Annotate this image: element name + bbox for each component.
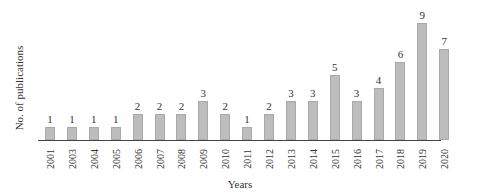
bar-value-label: 2 [150, 100, 170, 112]
x-tick-label: 2007 [154, 145, 166, 175]
bar-value-label: 1 [237, 113, 257, 125]
x-tick-label: 2015 [329, 145, 341, 175]
x-axis-label: Years [0, 178, 480, 190]
bar [111, 127, 121, 140]
bar [155, 114, 165, 140]
bar-value-label: 7 [434, 35, 454, 47]
bar [242, 127, 252, 140]
bar-value-label: 1 [40, 113, 60, 125]
bar [89, 127, 99, 140]
bar-value-label: 1 [84, 113, 104, 125]
x-tick-label: 2009 [197, 145, 209, 175]
x-axis-line [38, 140, 441, 141]
bar [45, 127, 55, 140]
y-axis-label: No. of publications [10, 35, 28, 140]
x-tick-label: 2012 [263, 145, 275, 175]
bar [220, 114, 230, 140]
x-tick-label: 2013 [285, 145, 297, 175]
bar [133, 114, 143, 140]
bar-value-label: 4 [369, 74, 389, 86]
x-tick-label: 2019 [416, 145, 428, 175]
bar [439, 49, 449, 140]
bar [198, 101, 208, 140]
x-tick-label: 2008 [175, 145, 187, 175]
bar-value-label: 5 [325, 61, 345, 73]
bar-value-label: 3 [193, 87, 213, 99]
x-tick-label: 2001 [44, 145, 56, 175]
bar-value-label: 2 [171, 100, 191, 112]
bar-value-label: 2 [259, 100, 279, 112]
x-tick-label: 2006 [132, 145, 144, 175]
bar [286, 101, 296, 140]
x-tick-label: 2018 [394, 145, 406, 175]
bar [308, 101, 318, 140]
bar [374, 88, 384, 140]
bar-value-label: 2 [215, 100, 235, 112]
bar [330, 75, 340, 140]
x-tick-label: 2014 [307, 145, 319, 175]
x-tick-label: 2005 [110, 145, 122, 175]
bar [176, 114, 186, 140]
bar-value-label: 3 [347, 87, 367, 99]
x-tick-label: 2010 [219, 145, 231, 175]
bar-value-label: 3 [281, 87, 301, 99]
bar [417, 23, 427, 140]
bar-value-label: 1 [106, 113, 126, 125]
bar [352, 101, 362, 140]
x-tick-label: 2016 [351, 145, 363, 175]
bar-value-label: 2 [128, 100, 148, 112]
bar [395, 62, 405, 140]
x-tick-label: 2011 [241, 145, 253, 175]
x-tick-label: 2017 [373, 145, 385, 175]
x-tick-label: 2004 [88, 145, 100, 175]
bar [67, 127, 77, 140]
bar-value-label: 9 [412, 9, 432, 21]
bar-value-label: 3 [303, 87, 323, 99]
bar-value-label: 6 [390, 48, 410, 60]
bar [264, 114, 274, 140]
x-tick-label: 2020 [438, 145, 450, 175]
bar-value-label: 1 [62, 113, 82, 125]
x-tick-label: 2003 [66, 145, 78, 175]
bar-chart: No. of publications 12001120031200412005… [0, 0, 480, 195]
